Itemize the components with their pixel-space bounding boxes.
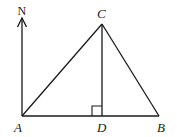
right-angle-marker-icon [92,106,102,116]
segment-BC [102,24,159,116]
label-point-d: D [96,120,107,135]
label-point-c: C [97,6,106,21]
label-north: N [18,4,27,18]
label-point-b: B [157,120,165,135]
segment-AC [22,24,102,116]
label-point-a: A [13,120,22,135]
triangle-diagram: N C A D B [0,0,177,137]
